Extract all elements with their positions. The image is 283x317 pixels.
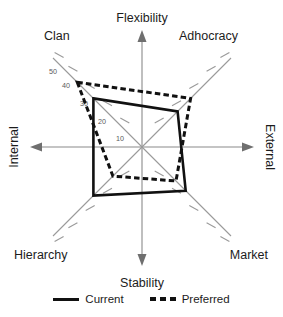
tick-label-50: 50 — [49, 67, 57, 76]
tick-market-50 — [220, 237, 229, 242]
tick-hierarchy-50 — [55, 237, 64, 242]
radial-tick-labels-group: 50 40 30 20 10 — [49, 67, 124, 143]
tick-hierarchy-10 — [120, 171, 129, 176]
legend-swatch-current-icon — [53, 298, 79, 301]
flexibility-arrow-icon — [138, 30, 147, 42]
tick-label-40: 40 — [62, 81, 70, 90]
tick-market-30 — [189, 206, 198, 211]
radial-axis-adhocracy — [142, 58, 231, 147]
tick-adhocracy-20 — [172, 101, 181, 106]
tick-hierarchy-30 — [86, 206, 95, 211]
axis-label-flexibility: Flexibility — [116, 11, 168, 25]
tick-label-20: 20 — [98, 117, 106, 126]
chart-legend: Current Preferred — [0, 288, 283, 310]
tick-hierarchy-20 — [103, 188, 112, 193]
tick-market-10 — [155, 171, 164, 176]
radial-axis-hierarchy — [53, 147, 142, 236]
tick-hierarchy-40 — [68, 223, 77, 228]
stability-arrow-icon — [138, 254, 147, 266]
axis-label-hierarchy: Hierarchy — [14, 248, 68, 262]
legend-item-current: Current — [53, 293, 123, 305]
axis-label-clan: Clan — [44, 29, 70, 43]
axis-label-market: Market — [230, 248, 269, 262]
tick-adhocracy-50 — [220, 52, 229, 57]
legend-label-current: Current — [85, 293, 123, 305]
axis-label-adhocracy: Adhocracy — [179, 29, 239, 43]
legend-label-preferred: Preferred — [182, 293, 230, 305]
quadrant-axes-group — [30, 30, 254, 266]
axis-label-external: External — [263, 124, 277, 170]
legend-item-preferred: Preferred — [150, 293, 230, 305]
tick-adhocracy-10 — [155, 118, 164, 123]
tick-clan-50 — [55, 52, 64, 57]
legend-swatch-preferred-icon — [150, 297, 176, 300]
internal-arrow-icon — [30, 143, 42, 152]
tick-clan-40 — [68, 66, 77, 71]
radar-chart: 50 40 30 20 10 Flexibility Stability Int… — [0, 0, 283, 317]
external-arrow-icon — [242, 143, 254, 152]
tick-label-10: 10 — [116, 134, 124, 143]
tick-adhocracy-30 — [189, 84, 198, 89]
tick-clan-10 — [120, 118, 129, 123]
axis-label-internal: Internal — [7, 126, 21, 168]
tick-market-40 — [207, 223, 216, 228]
radar-chart-svg: 50 40 30 20 10 Flexibility Stability Int… — [0, 0, 283, 317]
tick-adhocracy-40 — [207, 66, 216, 71]
